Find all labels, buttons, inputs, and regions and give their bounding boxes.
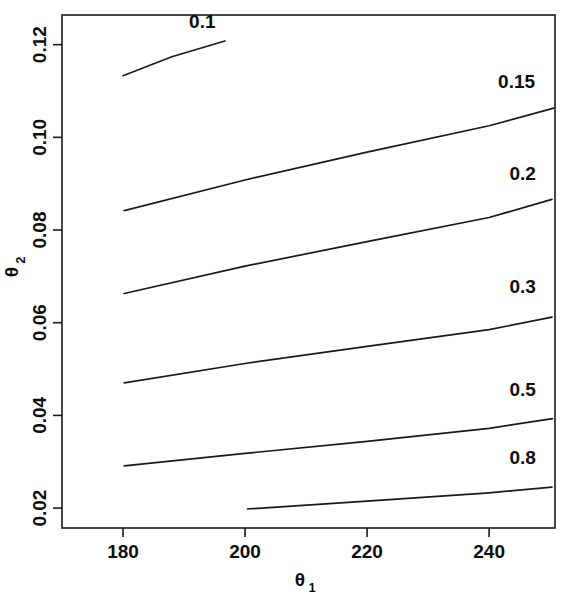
contour-label-0-15: 0.15 [498, 71, 535, 92]
contour-line-0-2 [124, 199, 552, 293]
x-axis-title: θ 1 [295, 569, 316, 595]
contour-label-0-1: 0.1 [189, 11, 216, 32]
y-tick-label: 0.06 [29, 304, 50, 341]
contour-label-0-5: 0.5 [509, 379, 536, 400]
x-tick-label: 240 [473, 541, 505, 562]
y-tick-label: 0.04 [29, 396, 50, 433]
y-tick-label: 0.10 [29, 119, 50, 156]
plot-frame [62, 15, 555, 528]
contour-line-0-15 [124, 108, 554, 210]
x-tick-label: 180 [107, 541, 139, 562]
y-tick-label: 0.12 [29, 26, 50, 63]
x-axis-ticks [123, 528, 489, 537]
x-axis-title-subscript: 1 [308, 580, 315, 595]
contour-plot: 180200220240 0.020.040.060.080.100.12 0.… [0, 0, 575, 601]
x-axis-tick-labels: 180200220240 [107, 541, 505, 562]
contour-label-0-8: 0.8 [509, 447, 535, 468]
contour-lines-group [123, 41, 554, 509]
y-axis-ticks [53, 45, 62, 508]
y-axis-title-subscript: 2 [13, 256, 28, 263]
x-tick-label: 200 [229, 541, 261, 562]
y-axis-title: θ 2 [1, 256, 28, 277]
x-tick-label: 220 [351, 541, 383, 562]
x-axis-title-symbol: θ [295, 569, 305, 590]
contour-labels-group: 0.10.150.20.30.50.8 [189, 11, 536, 467]
contour-plot-canvas: 180200220240 0.020.040.060.080.100.12 0.… [0, 0, 575, 601]
y-axis-tick-labels: 0.020.040.060.080.100.12 [29, 26, 50, 526]
contour-label-0-2: 0.2 [509, 163, 535, 184]
y-axis-title-symbol: θ [1, 267, 22, 277]
y-tick-label: 0.02 [29, 490, 50, 527]
contour-line-0-3 [124, 317, 552, 383]
contour-label-0-3: 0.3 [509, 276, 535, 297]
contour-line-0-5 [124, 419, 552, 466]
y-tick-label: 0.08 [29, 212, 50, 249]
contour-line-0-1 [123, 41, 225, 76]
contour-line-0-8 [247, 487, 551, 509]
